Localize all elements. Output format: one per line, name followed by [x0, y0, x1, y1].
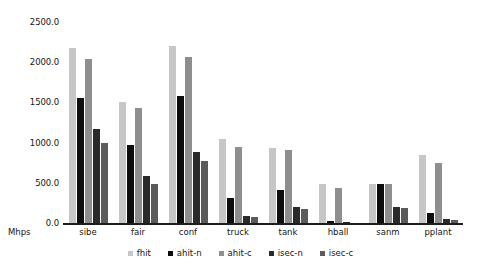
- bar[interactable]: [301, 209, 308, 223]
- bar[interactable]: [385, 184, 392, 223]
- bar[interactable]: [335, 188, 342, 223]
- bar[interactable]: [293, 207, 300, 223]
- bar-group: [313, 22, 363, 223]
- y-axis-tick-label: 2500.0: [3, 17, 59, 27]
- bar[interactable]: [435, 163, 442, 223]
- bar-group: [113, 22, 163, 223]
- legend-swatch-icon: [320, 251, 325, 256]
- x-axis-tick-label: sanm: [363, 227, 413, 241]
- bar[interactable]: [269, 148, 276, 223]
- bar[interactable]: [419, 155, 426, 223]
- bar[interactable]: [85, 59, 92, 223]
- legend-swatch-icon: [269, 251, 274, 256]
- bar[interactable]: [427, 213, 434, 223]
- bar[interactable]: [119, 102, 126, 223]
- bar[interactable]: [177, 96, 184, 223]
- legend-label: isec-c: [329, 248, 353, 258]
- bar[interactable]: [143, 176, 150, 223]
- x-axis-line: [63, 223, 463, 225]
- y-axis-tick-label: 500.0: [3, 178, 59, 188]
- bar[interactable]: [69, 48, 76, 223]
- y-axis-tick-label: 1000.0: [3, 138, 59, 148]
- legend-label: ahit-n: [177, 248, 202, 258]
- bar[interactable]: [377, 184, 384, 223]
- x-axis-tick-label: hball: [313, 227, 363, 241]
- legend-swatch-icon: [219, 251, 224, 256]
- x-axis-title: Mhps: [8, 227, 31, 237]
- bar[interactable]: [135, 108, 142, 223]
- bar[interactable]: [201, 161, 208, 223]
- bar[interactable]: [169, 46, 176, 223]
- x-axis-tick-label: tank: [263, 227, 313, 241]
- plot-area: [63, 22, 463, 223]
- bar[interactable]: [127, 145, 134, 223]
- x-axis-tick-label: truck: [213, 227, 263, 241]
- bar-chart: 0.0500.01000.01500.02000.02500.0 sibefai…: [0, 0, 481, 271]
- x-axis-tick-label: fair: [113, 227, 163, 241]
- y-axis-tick-label: 2000.0: [3, 57, 59, 67]
- bar[interactable]: [243, 216, 250, 223]
- x-axis-tick-label: conf: [163, 227, 213, 241]
- bar-group: [263, 22, 313, 223]
- bar-group: [413, 22, 463, 223]
- bar[interactable]: [369, 184, 376, 223]
- bar[interactable]: [235, 147, 242, 223]
- x-axis-labels: sibefairconftrucktankhballsanmpplant: [63, 227, 463, 241]
- bar[interactable]: [401, 208, 408, 223]
- bar-group: [213, 22, 263, 223]
- bar[interactable]: [185, 57, 192, 223]
- legend-item[interactable]: isec-n: [269, 248, 303, 258]
- bar[interactable]: [77, 98, 84, 223]
- bar-group: [63, 22, 113, 223]
- bar[interactable]: [101, 143, 108, 223]
- legend-item[interactable]: fhit: [128, 248, 151, 258]
- legend-label: isec-n: [278, 248, 303, 258]
- legend-swatch-icon: [128, 251, 133, 256]
- bar-group: [363, 22, 413, 223]
- bar[interactable]: [227, 198, 234, 223]
- bar[interactable]: [219, 139, 226, 223]
- x-axis-tick-label: sibe: [63, 227, 113, 241]
- x-axis-tick-label: pplant: [413, 227, 463, 241]
- chart-legend: fhitahit-nahit-cisec-nisec-c: [0, 248, 481, 258]
- bar[interactable]: [285, 150, 292, 223]
- bar[interactable]: [319, 184, 326, 223]
- legend-label: fhit: [137, 248, 151, 258]
- bar-groups: [63, 22, 463, 223]
- bar[interactable]: [193, 152, 200, 223]
- bar[interactable]: [277, 190, 284, 223]
- bar[interactable]: [93, 129, 100, 223]
- y-axis: 0.0500.01000.01500.02000.02500.0: [0, 22, 59, 223]
- bar[interactable]: [393, 207, 400, 223]
- legend-swatch-icon: [168, 251, 173, 256]
- legend-item[interactable]: ahit-n: [168, 248, 202, 258]
- y-axis-tick-label: 1500.0: [3, 97, 59, 107]
- legend-item[interactable]: ahit-c: [219, 248, 252, 258]
- bar-group: [163, 22, 213, 223]
- legend-item[interactable]: isec-c: [320, 248, 353, 258]
- legend-label: ahit-c: [228, 248, 252, 258]
- bar[interactable]: [151, 184, 158, 223]
